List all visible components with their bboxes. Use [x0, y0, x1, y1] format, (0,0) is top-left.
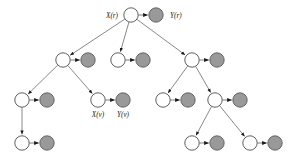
- hidden-variable-node: [208, 93, 222, 107]
- transition-edge: [220, 106, 245, 136]
- hidden-variable-node: [243, 136, 257, 150]
- observed-variable-node: [81, 53, 95, 67]
- observed-variable-node: [116, 93, 130, 107]
- observed-variable-node: [149, 8, 163, 22]
- hidden-variable-node: [185, 53, 199, 67]
- transition-edge: [120, 22, 129, 51]
- hidden-variable-node: [91, 93, 105, 107]
- label-x-v: X(v): [91, 111, 105, 119]
- observed-variable-node: [268, 136, 282, 150]
- observed-variable-node: [210, 53, 224, 67]
- hidden-node-layer: [15, 8, 257, 150]
- label-y-r: Y(r): [170, 12, 182, 20]
- transition-edge: [68, 66, 92, 94]
- label-y-v: Y(v): [117, 111, 130, 119]
- transition-edge: [28, 65, 57, 94]
- transition-edge: [137, 19, 185, 54]
- transition-edge: [196, 107, 211, 136]
- hidden-variable-node: [156, 93, 170, 107]
- transition-edge: [168, 66, 187, 93]
- transition-edge: [196, 66, 211, 92]
- hidden-variable-node: [15, 136, 29, 150]
- observed-variable-node: [40, 136, 54, 150]
- observed-variable-node: [181, 93, 195, 107]
- observed-variable-node: [233, 93, 247, 107]
- observed-variable-node: [40, 93, 54, 107]
- tree-diagram: X(r)Y(r)X(v)Y(v): [0, 0, 296, 162]
- hidden-variable-node: [56, 53, 70, 67]
- transition-edge-layer: [22, 19, 244, 136]
- transition-edge: [70, 19, 124, 55]
- hidden-variable-node: [15, 93, 29, 107]
- hidden-variable-node: [111, 53, 125, 67]
- hidden-variable-node: [124, 8, 138, 22]
- emission-edge-layer: [29, 15, 266, 143]
- observed-variable-node: [136, 53, 150, 67]
- observed-node-layer: [40, 8, 282, 150]
- observed-variable-node: [210, 136, 224, 150]
- hidden-variable-node: [185, 136, 199, 150]
- label-x-r: X(r): [105, 12, 119, 20]
- diagram-canvas: X(r)Y(r)X(v)Y(v): [0, 0, 296, 162]
